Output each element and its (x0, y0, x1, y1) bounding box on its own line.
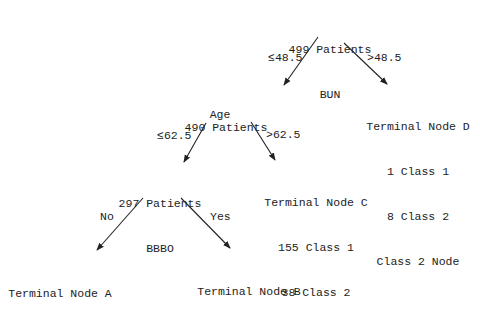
bbbo-left-edge-label: No (100, 210, 114, 224)
terminal-d-line2: 8 Class 2 (366, 209, 470, 224)
terminal-node-b: Terminal Node B 8 Class 1 4 Class 2 Clas… (197, 254, 301, 321)
bbbo-node: 297 Patients BBBO (119, 166, 202, 271)
root-left-edge-label: ≤48.5 (268, 51, 303, 65)
root-split: BUN (289, 87, 372, 102)
terminal-c-title: Terminal Node C (264, 195, 368, 210)
age-count: 490 Patients (185, 120, 268, 135)
terminal-d-line1: 1 Class 1 (366, 164, 470, 179)
terminal-d-title: Terminal Node D (366, 119, 470, 134)
age-split: Age (210, 107, 231, 122)
bbbo-right-edge-label: Yes (210, 210, 231, 224)
terminal-a-title: Terminal Node A (8, 286, 112, 301)
terminal-node-a: Terminal Node A 265 Class 1 20 Class 2 C… (8, 256, 112, 321)
bbbo-split: BBBO (119, 241, 202, 256)
terminal-c-line1: 155 Class 1 (264, 240, 368, 255)
terminal-node-d: Terminal Node D 1 Class 1 8 Class 2 Clas… (366, 89, 470, 284)
age-right-edge-label: >62.5 (266, 128, 301, 142)
age-left-edge-label: ≤62.5 (157, 129, 192, 143)
root-right-edge-label: >48.5 (367, 51, 402, 65)
terminal-b-title: Terminal Node B (197, 284, 301, 299)
bbbo-count: 297 Patients (119, 196, 202, 211)
terminal-d-line3: Class 2 Node (366, 254, 470, 269)
